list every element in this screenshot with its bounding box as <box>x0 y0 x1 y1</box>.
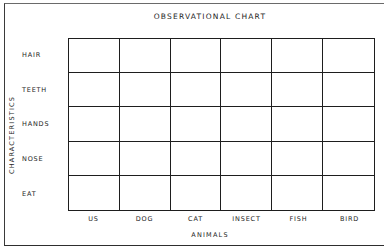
grid-cell[interactable] <box>323 107 374 141</box>
observation-grid <box>68 38 375 211</box>
grid-cell[interactable] <box>171 73 222 107</box>
column-label-insect: INSECT <box>221 215 272 223</box>
grid-cell[interactable] <box>69 107 120 141</box>
grid-cell[interactable] <box>323 73 374 107</box>
y-axis-title: CHARACTERISTICS <box>8 96 16 174</box>
grid-cell[interactable] <box>69 176 120 210</box>
grid-cell[interactable] <box>171 107 222 141</box>
grid-cell[interactable] <box>323 176 374 210</box>
grid-cell[interactable] <box>69 39 120 73</box>
grid-cell[interactable] <box>272 73 323 107</box>
grid-cell[interactable] <box>69 142 120 176</box>
column-label-bird: BIRD <box>324 215 375 223</box>
grid-cell[interactable] <box>221 39 272 73</box>
x-axis-title: ANIMALS <box>170 231 250 239</box>
grid-cell[interactable] <box>120 142 171 176</box>
grid-cell[interactable] <box>120 73 171 107</box>
grid-cell[interactable] <box>171 176 222 210</box>
row-label-nose: NOSE <box>22 155 43 163</box>
grid-cell[interactable] <box>272 176 323 210</box>
column-label-us: US <box>68 215 119 223</box>
row-label-hands: HANDS <box>22 120 49 128</box>
grid-cell[interactable] <box>221 73 272 107</box>
column-label-cat: CAT <box>170 215 221 223</box>
column-label-fish: FISH <box>273 215 324 223</box>
grid-cell[interactable] <box>272 142 323 176</box>
grid-cell[interactable] <box>120 107 171 141</box>
grid-cell[interactable] <box>120 39 171 73</box>
column-label-dog: DOG <box>119 215 170 223</box>
grid-cell[interactable] <box>323 142 374 176</box>
row-label-teeth: TEETH <box>22 86 47 94</box>
grid-cell[interactable] <box>221 142 272 176</box>
grid-cell[interactable] <box>171 39 222 73</box>
grid-cell[interactable] <box>323 39 374 73</box>
grid-cell[interactable] <box>272 39 323 73</box>
row-label-eat: EAT <box>22 190 36 198</box>
grid-cell[interactable] <box>69 73 120 107</box>
grid-cell[interactable] <box>120 176 171 210</box>
grid-cell[interactable] <box>171 142 222 176</box>
grid-cell[interactable] <box>221 107 272 141</box>
row-label-hair: HAIR <box>22 51 41 59</box>
chart-title: OBSERVATIONAL CHART <box>130 12 290 21</box>
grid-cell[interactable] <box>272 107 323 141</box>
grid-cell[interactable] <box>221 176 272 210</box>
